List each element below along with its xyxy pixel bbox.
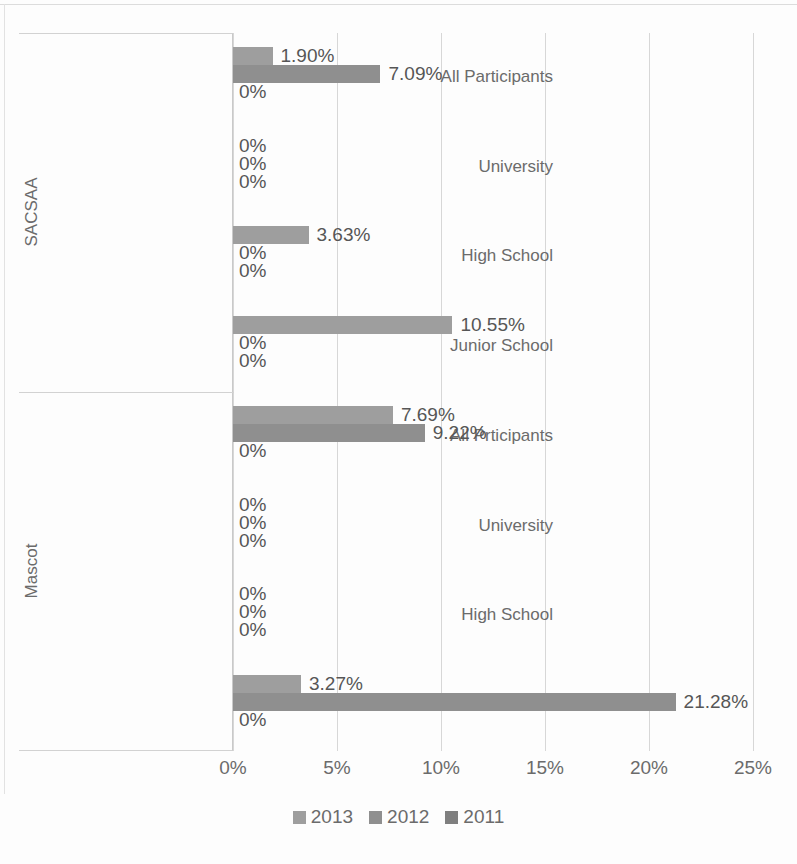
data-label: 0% [239,136,266,155]
category-label: High School [461,246,553,266]
bar-2013 [233,47,273,65]
legend-swatch-icon [293,811,306,824]
gridline-5pct [337,33,338,751]
data-label: 0% [239,172,266,191]
bar-2013 [233,406,393,424]
gridline-10pct [441,33,442,751]
legend-label: 2012 [387,806,429,828]
legend-label: 2013 [311,806,353,828]
x-tick-label: 10% [406,757,476,779]
group-separator [19,392,234,393]
legend-label: 2011 [463,806,504,828]
data-label: 0% [239,495,266,514]
data-label: 3.27% [309,674,363,693]
category-label: All Participants [441,67,553,87]
legend-item-2012[interactable]: 2012 [369,806,429,828]
x-tick-label: 25% [718,757,788,779]
data-label: 0% [239,82,266,101]
data-label: 21.28% [684,692,748,711]
x-tick-label: 0% [198,757,268,779]
data-label: 3.63% [317,225,371,244]
data-label: 0% [239,441,266,460]
bar-2013 [233,675,301,693]
data-label: 0% [239,261,266,280]
data-label: 0% [239,710,266,729]
category-label: Junior School [450,336,553,356]
chart-legend: 201320122011 [0,806,797,828]
legend-swatch-icon [445,811,458,824]
data-label: 0% [239,154,266,173]
group-label-sacsaa: SACSAA [22,142,42,282]
data-label: 0% [239,531,266,550]
scan-border-top [0,4,797,5]
plot-area [233,33,753,751]
legend-item-2013[interactable]: 2013 [293,806,353,828]
category-label: University [478,516,553,536]
legend-item-2011[interactable]: 2011 [445,806,504,828]
data-label: 1.90% [281,46,335,65]
gridline-25pct [753,33,754,751]
x-tick-label: 15% [510,757,580,779]
category-label: High School [461,605,553,625]
x-tick-label: 20% [614,757,684,779]
scan-border-left [4,4,5,794]
category-label: University [478,157,553,177]
data-label: 7.09% [388,64,442,83]
gridline-15pct [545,33,546,751]
data-label: 10.55% [460,315,524,334]
bar-chart: SACSAAMascot All ParticipantsUniversityH… [0,0,797,864]
x-tick-label: 5% [302,757,372,779]
data-label: 0% [239,620,266,639]
legend-swatch-icon [369,811,382,824]
group-label-mascot: Mascot [22,501,42,641]
data-label: 9.22% [433,423,487,442]
bar-2012 [233,693,676,711]
gridline-20pct [649,33,650,751]
data-label: 0% [239,351,266,370]
data-label: 0% [239,513,266,532]
